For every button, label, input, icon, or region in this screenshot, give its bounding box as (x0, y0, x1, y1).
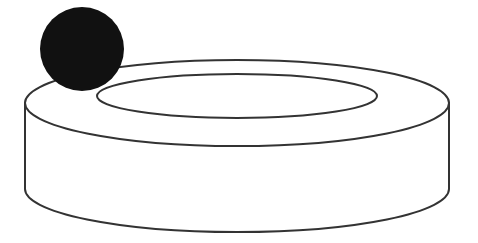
diagram-canvas (0, 0, 478, 243)
ring-inner-hole (97, 74, 377, 118)
black-ball (40, 7, 124, 91)
